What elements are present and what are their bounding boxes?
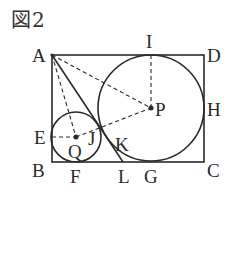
dashed-ap [52,55,151,108]
label-d: D [207,45,221,66]
label-k: K [115,134,129,155]
label-f: F [70,166,81,187]
center-dot-q [74,135,79,140]
dashed-aq [52,55,76,137]
label-c: C [207,160,220,181]
label-j: J [88,128,95,149]
vertex-dot-a [50,53,53,56]
label-g: G [144,166,158,187]
label-b: B [32,160,45,181]
label-a: A [32,45,46,66]
center-dot-p [149,106,154,111]
label-q: Q [68,141,82,162]
label-p: P [155,99,166,120]
label-l: L [118,166,130,187]
label-i: I [146,31,152,52]
label-h: H [207,99,221,120]
label-e: E [34,127,46,148]
geometry-diagram: A B C D E F G H I J K L P Q [0,0,240,254]
